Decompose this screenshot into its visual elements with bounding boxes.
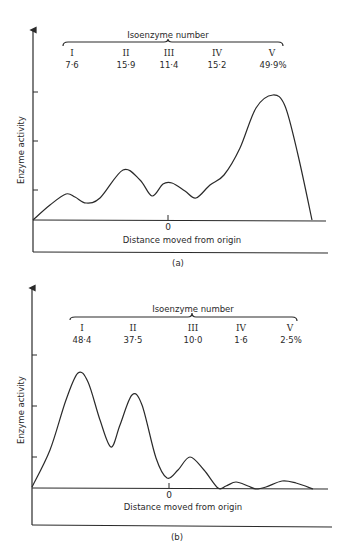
iso-pct-b: 1·6 xyxy=(234,335,248,345)
iso-pct-a: 15·9 xyxy=(117,60,136,70)
origin-label-a: 0 xyxy=(165,222,171,232)
panel-label-a: (a) xyxy=(172,258,184,268)
chart-a: 0 Distance moved from origin (a) Enzyme … xyxy=(16,30,328,268)
iso-pct-b: 10·0 xyxy=(184,335,203,345)
y-axis-label-b: Enzyme activity xyxy=(16,376,26,444)
activity-curve-b xyxy=(32,372,313,489)
iso-name-a: II xyxy=(122,48,130,58)
iso-name-a: I xyxy=(70,48,74,58)
x-axis-label-b: Distance moved from origin xyxy=(124,502,242,512)
iso-pct-a: 15·2 xyxy=(208,60,227,70)
iso-name-a: IV xyxy=(212,48,223,58)
iso-name-b: I xyxy=(80,323,84,333)
iso-pct-a: 11·4 xyxy=(160,60,179,70)
x-axis-label-a: Distance moved from origin xyxy=(123,235,241,245)
iso-pct-a: 7·6 xyxy=(65,60,79,70)
bracket-a xyxy=(63,39,283,46)
iso-name-b: III xyxy=(188,323,199,333)
bracket-title-b: Isoenzyme number xyxy=(152,304,234,314)
iso-name-b: V xyxy=(286,323,294,333)
iso-pct-b: 37·5 xyxy=(124,335,143,345)
x-axis-a xyxy=(33,220,326,221)
iso-name-a: V xyxy=(268,48,276,58)
bracket-b xyxy=(70,313,297,321)
bracket-title-a: Isoenzyme number xyxy=(127,30,209,40)
panel-label-b: (b) xyxy=(171,532,183,542)
iso-name-b: IV xyxy=(236,323,247,333)
chart-b: 0 Distance moved from origin (b) Enzyme … xyxy=(16,288,332,542)
origin-label-b: 0 xyxy=(166,490,172,500)
iso-name-a: III xyxy=(164,48,175,58)
figure: 0 Distance moved from origin (a) Enzyme … xyxy=(0,0,346,552)
frame-bottom-b xyxy=(32,525,332,527)
y-axis-label-a: Enzyme activity xyxy=(16,116,26,184)
iso-pct-b: 2·5% xyxy=(280,335,302,345)
iso-name-b: II xyxy=(129,323,137,333)
activity-curve-a xyxy=(33,95,312,220)
iso-pct-b: 48·4 xyxy=(73,335,92,345)
x-axis-b xyxy=(32,488,328,489)
iso-pct-a: 49·9% xyxy=(259,60,286,70)
frame-bottom-a xyxy=(33,252,328,253)
